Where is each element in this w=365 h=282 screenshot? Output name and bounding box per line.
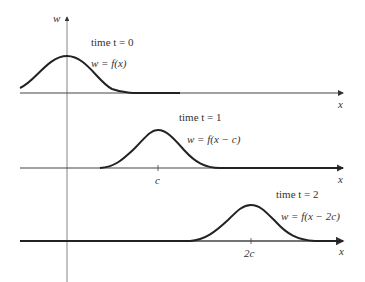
wave-diagram: w x time t = 0 w = f(x) c x time t = 1 w… [0,0,365,282]
panel-t2: 2c x time t = 2 w = f(x − 2c) [20,188,344,259]
w-axis-label: w [53,12,61,24]
equation-t1: w = f(x − c) [187,133,241,146]
x-axis-label-2: x [337,173,343,185]
time-label-t1: time t = 1 [179,111,222,123]
x-axis-label-1: x [337,98,343,110]
time-label-t2: time t = 2 [276,188,319,200]
panel-t0: x time t = 0 w = f(x) [20,36,343,110]
tick-label-c: c [155,174,160,186]
panel-t1: c x time t = 1 w = f(x − c) [20,111,343,186]
tick-label-2c: 2c [244,247,255,259]
equation-t0: w = f(x) [91,57,127,70]
equation-t2: w = f(x − 2c) [281,210,340,223]
x-axis-label-3: x [338,245,344,257]
time-label-t0: time t = 0 [91,36,134,48]
